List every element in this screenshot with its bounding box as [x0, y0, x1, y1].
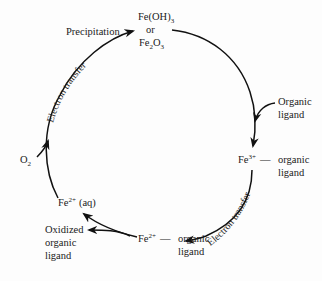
svg-text:Fe3+—: Fe3+— — [238, 153, 271, 165]
arc-bottom — [84, 214, 137, 237]
svg-text:Fe2+—: Fe2+— — [138, 232, 171, 244]
output-oxidized-organic-ligand: Oxidized organic ligand — [45, 224, 84, 261]
node-fe2-organic-ligand-oxidized: Fe2+— organic ligand — [138, 232, 210, 257]
svg-text:organic: organic — [278, 154, 310, 165]
svg-text:ligand: ligand — [278, 109, 305, 120]
svg-text:Fe(OH)3: Fe(OH)3 — [138, 11, 175, 25]
arc-top-right — [172, 30, 255, 146]
arrow-oxidized-ligand-output — [89, 230, 130, 236]
svg-text:organic: organic — [178, 233, 210, 244]
node-iron-hydroxide: Fe(OH)3 or Fe2O3 — [138, 11, 175, 51]
svg-text:Fe2O3: Fe2O3 — [139, 37, 165, 51]
svg-text:Organic: Organic — [278, 96, 312, 107]
label-electron-transfer-left: Electron transfer — [44, 59, 88, 124]
arc-left-electron-transfer — [46, 31, 133, 198]
svg-text:ligand: ligand — [178, 246, 205, 257]
arrow-organic-ligand-input — [255, 103, 275, 121]
node-fe2-aqueous: Fe2+(aq) — [58, 196, 96, 209]
iron-cycle-diagram: Fe(OH)3 or Fe2O3 Precipitation Electron … — [0, 0, 322, 281]
node-fe3-organic-ligand: Fe3+— organic ligand — [238, 153, 310, 178]
svg-text:or: or — [146, 24, 155, 35]
svg-text:Fe2+(aq): Fe2+(aq) — [58, 196, 96, 209]
label-precipitation: Precipitation — [66, 26, 120, 37]
input-oxygen: O2 — [20, 154, 32, 168]
svg-text:organic: organic — [45, 237, 77, 248]
input-organic-ligand: Organic ligand — [278, 96, 312, 120]
svg-text:ligand: ligand — [45, 250, 72, 261]
label-electron-transfer-right: Electron transfer — [205, 190, 253, 248]
svg-text:Oxidized: Oxidized — [45, 224, 84, 235]
svg-text:ligand: ligand — [278, 167, 305, 178]
svg-text:O2: O2 — [20, 154, 32, 168]
